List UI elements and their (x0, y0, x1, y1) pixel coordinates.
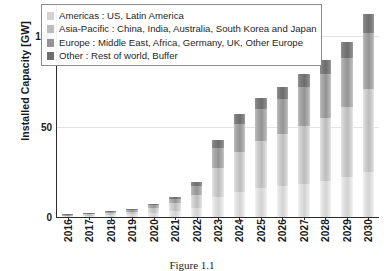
stacked-bar (298, 74, 310, 217)
stacked-bar (148, 204, 160, 217)
x-axis-tick-mark (282, 217, 283, 220)
bar-segment-americas (277, 186, 289, 217)
bar-segment-asia-pacific (212, 168, 224, 197)
x-axis-tick-mark (325, 217, 326, 220)
x-axis-tick-mark (132, 217, 133, 220)
legend-swatch-asia-pacific (47, 25, 54, 33)
x-axis-tick-label: 2026 (277, 219, 288, 242)
x-axis-tick-labels: 2016201720182019202020212022202320242025… (57, 219, 379, 259)
bar-segment-americas (363, 172, 375, 217)
x-axis-tick-mark (89, 217, 90, 220)
stacked-bar (255, 98, 267, 217)
x-axis-tick-label: 2022 (192, 219, 203, 242)
bar-segment-europe (212, 148, 224, 168)
bar-segment-asia-pacific (320, 118, 332, 181)
stacked-bar (212, 140, 224, 217)
figure-caption: Figure 1.1 (0, 259, 384, 271)
stacked-bar (277, 87, 289, 217)
bar-segment-americas (341, 177, 353, 217)
legend-item: Europe : Middle East, Africa, Germany, U… (47, 36, 316, 50)
x-axis-tick-label: 2027 (299, 219, 310, 242)
bar-segment-americas (234, 192, 246, 217)
legend-swatch-europe (47, 39, 54, 47)
bar-segment-other (363, 14, 375, 33)
stacked-bar (191, 182, 203, 217)
bar-segment-asia-pacific (234, 152, 246, 192)
legend-item-label: Other : Rest of world, Buffer (59, 51, 178, 61)
stacked-bar (363, 14, 375, 217)
x-axis-tick-label: 2023 (213, 219, 224, 242)
x-axis-tick-label: 2019 (127, 219, 138, 242)
bar-segment-other (212, 140, 224, 148)
legend-item: Americas : US, Latin America (47, 9, 316, 23)
legend-item: Other : Rest of world, Buffer (47, 50, 316, 64)
bar-segment-asia-pacific (341, 107, 353, 177)
stacked-bar (234, 114, 246, 217)
x-axis-tick-label: 2025 (256, 219, 267, 242)
stacked-bar (341, 42, 353, 217)
bar-segment-americas (212, 197, 224, 217)
stacked-bar (320, 60, 332, 217)
x-axis-tick-mark (111, 217, 112, 220)
x-axis-tick-label: 2024 (234, 219, 245, 242)
x-axis-tick-label: 2029 (342, 219, 353, 242)
bar-segment-europe (298, 87, 310, 126)
bar-segment-europe (341, 58, 353, 107)
bar-segment-asia-pacific (255, 141, 267, 188)
bar-segment-other (277, 87, 289, 99)
legend-swatch-other (47, 52, 54, 60)
x-axis-tick-mark (154, 217, 155, 220)
bar-segment-europe (234, 124, 246, 152)
x-axis-tick-mark (347, 217, 348, 220)
bar-segment-europe (255, 109, 267, 141)
x-axis-tick-label: 2018 (106, 219, 117, 242)
x-axis-tick-mark (68, 217, 69, 220)
x-axis-tick-mark (175, 217, 176, 220)
legend-item-label: Americas : US, Latin America (59, 11, 184, 21)
x-axis-tick-label: 2017 (84, 219, 95, 242)
bar-segment-europe (277, 99, 289, 134)
bar-segment-americas (320, 181, 332, 217)
legend-item: Asia-Pacific : China, India, Australia, … (47, 23, 316, 37)
bar-segment-asia-pacific (191, 195, 203, 208)
x-axis-tick-mark (368, 217, 369, 220)
x-axis-tick-mark (197, 217, 198, 220)
y-axis-tick-label: 0 (26, 212, 52, 223)
stacked-bar (126, 209, 138, 217)
y-axis-tick-label: 50 (26, 121, 52, 132)
bar-segment-other (341, 42, 353, 58)
stacked-bar (169, 197, 181, 217)
bar-segment-europe (320, 74, 332, 117)
x-axis-tick-mark (261, 217, 262, 220)
legend: Americas : US, Latin AmericaAsia-Pacific… (41, 4, 322, 66)
bar-segment-europe (363, 33, 375, 89)
bar-segment-asia-pacific (169, 203, 181, 210)
x-axis-tick-mark (218, 217, 219, 220)
x-axis-tick-label: 2030 (363, 219, 374, 242)
bar-segment-europe (191, 186, 203, 195)
legend-item-label: Europe : Middle East, Africa, Germany, U… (59, 38, 303, 48)
legend-swatch-americas (47, 12, 54, 20)
bar-segment-americas (191, 208, 203, 217)
figure-container: Installed Capacity [GW] 050100 201620172… (0, 0, 384, 271)
bar-segment-asia-pacific (363, 89, 375, 172)
x-axis-tick-mark (239, 217, 240, 220)
x-axis-tick-mark (304, 217, 305, 220)
legend-item-label: Asia-Pacific : China, India, Australia, … (59, 24, 317, 34)
bar-segment-other (234, 114, 246, 124)
bar-segment-asia-pacific (298, 126, 310, 184)
bar-segment-other (255, 98, 267, 109)
x-axis-tick-label: 2016 (63, 219, 74, 242)
x-axis-tick-label: 2020 (149, 219, 160, 242)
x-axis-tick-label: 2021 (170, 219, 181, 242)
bar-segment-americas (298, 184, 310, 217)
bar-segment-asia-pacific (277, 134, 289, 186)
x-axis-tick-label: 2028 (320, 219, 331, 242)
bar-segment-americas (255, 188, 267, 217)
bar-segment-other (298, 74, 310, 87)
